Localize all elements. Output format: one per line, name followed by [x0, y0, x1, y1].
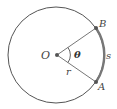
- label-arc: s: [106, 50, 111, 61]
- label-radius: r: [66, 66, 72, 77]
- angle-arc: [68, 48, 70, 63]
- label-center: O: [41, 49, 50, 62]
- label-b: B: [98, 18, 106, 29]
- arc-s: [96, 28, 104, 82]
- center-point: [55, 53, 59, 57]
- label-a: A: [97, 81, 105, 92]
- label-angle: θ: [74, 49, 81, 60]
- arc-length-diagram: O B A θ r s: [0, 0, 117, 109]
- point-b: [94, 26, 98, 30]
